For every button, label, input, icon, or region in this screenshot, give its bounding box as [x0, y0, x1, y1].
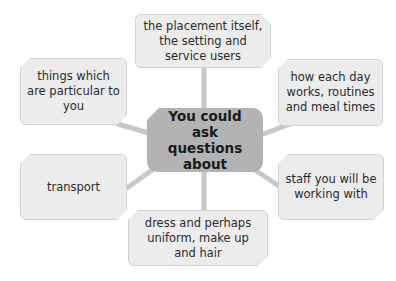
branch-staff: staff you will be working with: [278, 154, 384, 220]
branch-transport: transport: [20, 154, 127, 220]
connector-personal: [118, 124, 152, 134]
branch-transport-label: transport: [41, 180, 106, 195]
center-node: You could ask questions about: [147, 108, 263, 172]
center-node-label: You could ask questions about: [147, 108, 263, 172]
branch-daily: how each day works, routines and meal ti…: [278, 59, 383, 126]
branch-placement-label: the placement itself, the setting and se…: [136, 19, 270, 64]
branch-daily-label: how each day works, routines and meal ti…: [279, 70, 382, 115]
branch-staff-label: staff you will be working with: [279, 172, 383, 202]
branch-dress-label: dress and perhaps uniform, make up and h…: [129, 216, 267, 261]
branch-placement: the placement itself, the setting and se…: [135, 14, 271, 68]
branch-dress: dress and perhaps uniform, make up and h…: [128, 210, 268, 266]
mind-map-diagram: the placement itself, the setting and se…: [0, 0, 396, 281]
branch-personal-label: things which are particular to you: [21, 69, 126, 114]
branch-personal: things which are particular to you: [20, 58, 127, 125]
connector-transport: [127, 170, 152, 188]
